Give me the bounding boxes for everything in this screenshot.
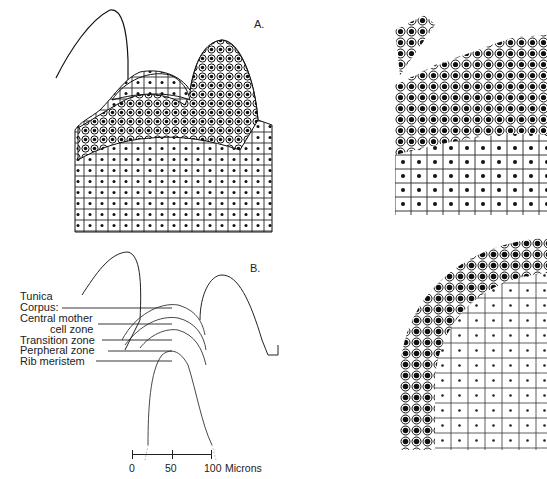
scale-tick-50: 50 (165, 462, 177, 474)
scale-bar (132, 450, 212, 460)
right-panel-bottom (400, 238, 547, 450)
scale-tick-100: 100 (204, 462, 222, 474)
panel-a-drawing (0, 0, 280, 240)
scale-tick-0: 0 (129, 462, 135, 474)
label-rib-meristem: Rib meristem (20, 356, 85, 367)
right-panel-top (395, 15, 547, 215)
cell-detail-top (395, 15, 547, 215)
panel-a: A. (0, 0, 280, 240)
panel-b: Tunica Corpus: Central mother cell zone … (0, 240, 290, 479)
cell-detail-bottom (400, 238, 547, 450)
panel-b-label: B. (250, 262, 260, 274)
scale-unit: Microns (225, 462, 262, 474)
panel-a-label: A. (254, 18, 264, 30)
